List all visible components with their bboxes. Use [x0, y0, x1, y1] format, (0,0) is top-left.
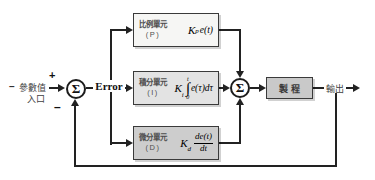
- i-coef: K: [174, 82, 181, 94]
- d-out-line: [219, 142, 241, 144]
- d-block-name: 微分單元: [139, 133, 167, 143]
- p-formula: Kpe(t): [188, 24, 213, 36]
- pid-block-diagram: – 參數值 入口 + – Σ Error 比例單元 (P) Kpe(t) 積分單…: [0, 0, 375, 180]
- p-block-name: 比例單元: [139, 20, 167, 30]
- i-formula: Kit∫0e(τ)dτ: [174, 76, 213, 100]
- p-coef-sub: p: [195, 27, 199, 35]
- p-out-drop-line: [239, 29, 241, 72]
- d-feed-arrow-icon: [126, 139, 133, 147]
- d-feed-line: [110, 142, 127, 144]
- input-label-line2: 入口: [27, 92, 45, 105]
- p-out-arrow-icon: [236, 71, 244, 78]
- process-feed-arrow-icon: [259, 84, 266, 92]
- p-block-title: 比例單元 (P): [139, 20, 167, 40]
- i-block-tag: (I): [147, 88, 159, 98]
- d-out-rise-line: [239, 105, 241, 144]
- i-coef-sub: i: [182, 91, 184, 99]
- p-feed-arrow-icon: [126, 26, 133, 34]
- i-integral-sign: ∫: [186, 82, 190, 94]
- d-out-arrow-icon: [236, 98, 244, 105]
- d-coef: K: [180, 137, 187, 149]
- d-block-title: 微分單元 (D): [139, 133, 167, 153]
- plus-sign: +: [49, 69, 55, 81]
- i-block-title: 積分單元 (I): [139, 78, 167, 98]
- sum-junction-left: Σ: [66, 79, 86, 99]
- p-expr: e(t): [200, 25, 213, 35]
- i-integral-lower: 0: [186, 94, 189, 100]
- i-block-name: 積分單元: [139, 78, 167, 88]
- d-block: 微分單元 (D) Kdde(t)dt: [133, 126, 219, 160]
- process-block-name: 製程: [279, 82, 303, 95]
- d-fraction: de(t)dt: [194, 132, 213, 154]
- minus-sign: –: [54, 100, 61, 114]
- feedback-bottom-line: [74, 165, 337, 167]
- i-feed-arrow-icon: [126, 84, 133, 92]
- feedback-arrow-icon: [71, 99, 79, 106]
- p-block: 比例單元 (P) Kpe(t): [133, 13, 219, 47]
- error-label: Error: [93, 80, 125, 92]
- output-label: 輸出: [323, 82, 347, 95]
- sum-junction-right: Σ: [230, 78, 250, 98]
- p-feed-line: [110, 29, 127, 31]
- i-integral: t∫0: [186, 76, 190, 100]
- d-denominator: dt: [200, 144, 207, 154]
- i-block: 積分單元 (I) Kit∫0e(τ)dτ: [133, 71, 219, 105]
- feedback-left-line: [74, 105, 76, 166]
- output-arrow-icon: [353, 84, 360, 92]
- feedback-right-line: [335, 93, 337, 167]
- d-formula: Kdde(t)dt: [180, 132, 213, 154]
- p-block-tag: (P): [146, 30, 161, 40]
- input-dash: –: [9, 81, 15, 92]
- sigma-symbol-right: Σ: [236, 80, 245, 96]
- input-arrow-icon: [58, 84, 65, 92]
- sigma-symbol-left: Σ: [72, 81, 81, 97]
- i-out-arrow-icon: [223, 84, 230, 92]
- i-expr: e(τ)dτ: [191, 83, 213, 93]
- d-block-tag: (D): [146, 143, 161, 153]
- d-coef-sub: d: [188, 145, 192, 153]
- process-block: 製程: [266, 77, 313, 99]
- p-out-line: [219, 29, 241, 31]
